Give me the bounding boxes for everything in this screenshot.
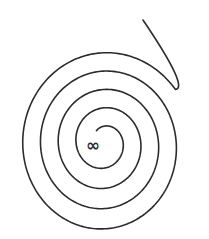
spiral-line	[23, 20, 179, 229]
spiral-diagram	[0, 0, 209, 239]
infinity-symbol: ∞	[86, 137, 100, 154]
